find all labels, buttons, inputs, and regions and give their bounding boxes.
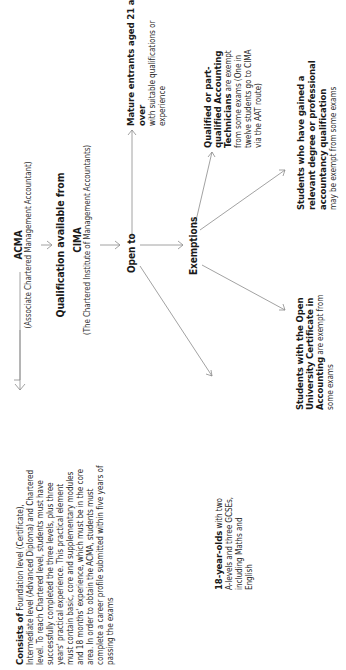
exemptions-label: Exemptions <box>188 217 199 275</box>
mature-lead: Mature entrants aged 21 and over <box>125 0 147 126</box>
consists-text: Foundation level (Certificate), Intermed… <box>15 466 115 665</box>
degree-lead: Students who have gained a relevant degr… <box>295 35 328 210</box>
mature-node: Mature entrants aged 21 and over with su… <box>125 0 167 126</box>
consists-node: Consists of Foundation level (Certificat… <box>15 465 115 665</box>
technicians-node: Qualified or part-qualified Accounting T… <box>203 38 263 148</box>
degree-text: may be exempt from some exams <box>328 35 338 210</box>
open-university-node: Students with the Open University Certif… <box>295 285 335 410</box>
cima-subtitle: (The Chartered Institute of Management A… <box>83 120 93 360</box>
consists-lead: Consists of <box>14 613 25 665</box>
acma-node: ACMA (Associate Chartered Management Acc… <box>13 120 34 370</box>
acma-subtitle: (Associate Chartered Management Accounta… <box>24 120 34 370</box>
degree-node: Students who have gained a relevant degr… <box>295 35 338 210</box>
diagram-canvas: ACMA (Associate Chartered Management Acc… <box>0 0 346 670</box>
eighteen-node: 18-year-olds with two A-levels and three… <box>214 495 254 590</box>
open-to-label: Open to <box>126 233 137 273</box>
acma-title: ACMA <box>13 120 24 370</box>
cima-title: CIMA <box>72 120 83 360</box>
mature-text: with suitable qualifications or experien… <box>147 0 167 126</box>
cima-node: CIMA (The Chartered Institute of Managem… <box>72 120 93 360</box>
eighteen-lead: 18-year-olds <box>213 531 224 590</box>
qualification-label: Qualification available from <box>55 155 66 335</box>
